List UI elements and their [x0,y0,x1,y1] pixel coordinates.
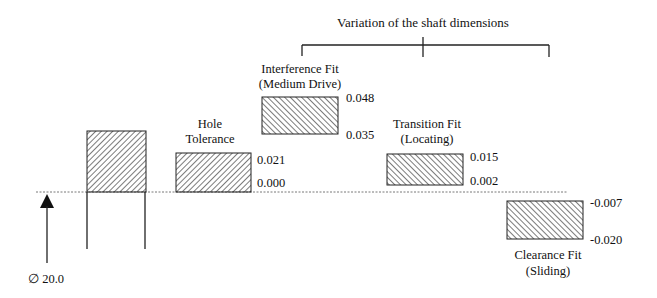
interference-upper-value: 0.048 [346,91,374,106]
transition-upper-value: 0.015 [470,150,498,165]
transition-fit-box [387,154,463,185]
hole-tolerance-box [176,153,251,192]
clearance-upper-value: -0.007 [590,196,622,211]
hole-tolerance-label: Hole [198,117,222,132]
clearance-lower-value: -0.020 [590,233,622,248]
variation-bracket [302,37,549,57]
interference-fit-label: Interference Fit [261,62,338,77]
hole-upper-value: 0.021 [257,153,285,168]
clearance-fit-box [507,201,583,239]
hole-tolerance-sublabel: Tolerance [185,132,234,147]
hole-lower-value: 0.000 [257,176,285,191]
diagram-title: Variation of the shaft dimensions [337,15,509,30]
interference-fit-sublabel: (Medium Drive) [259,77,341,92]
transition-lower-value: 0.002 [470,174,498,189]
interference-fit-box [262,97,338,134]
transition-fit-sublabel: (Locating) [401,132,454,147]
arrow-up-icon [40,194,54,263]
shaft-nominal-box [87,131,146,192]
interference-lower-value: 0.035 [346,128,374,143]
clearance-fit-label: Clearance Fit [515,248,582,263]
clearance-fit-sublabel: (Sliding) [526,264,570,279]
nominal-diameter-label: ∅ 20.0 [28,272,64,287]
transition-fit-label: Transition Fit [393,117,461,132]
